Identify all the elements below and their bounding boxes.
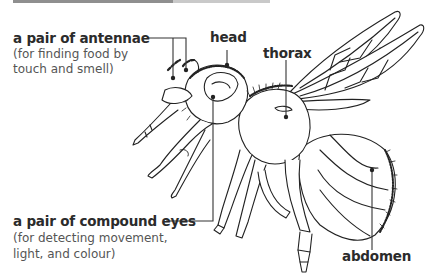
head-body bbox=[162, 65, 248, 124]
middle-legs-art bbox=[214, 150, 266, 238]
mouthparts-art bbox=[133, 104, 178, 145]
label-thorax: thorax bbox=[263, 45, 312, 61]
head-dot bbox=[225, 63, 229, 67]
compound-eyes-dot bbox=[211, 95, 215, 99]
desc-antennae-line1: (for finding food by bbox=[13, 47, 128, 62]
antennae-dot bbox=[184, 68, 188, 72]
label-antennae: a pair of antennae bbox=[13, 30, 150, 46]
abdomen-dot bbox=[370, 168, 374, 172]
label-abdomen: abdomen bbox=[342, 248, 411, 264]
antennae-leader-line bbox=[148, 38, 186, 70]
desc-compound-eyes-line1: (for detecting movement, bbox=[13, 231, 167, 246]
thorax-body bbox=[239, 85, 310, 163]
thorax-dot bbox=[284, 115, 288, 119]
antennae-dot-2 bbox=[171, 76, 175, 80]
front-legs-art bbox=[148, 120, 212, 198]
label-compound-eyes: a pair of compound eyes bbox=[13, 213, 196, 229]
label-head: head bbox=[210, 29, 247, 45]
desc-compound-eyes-line2: light, and colour) bbox=[13, 247, 115, 262]
desc-antennae-line2: touch and smell) bbox=[13, 62, 114, 77]
